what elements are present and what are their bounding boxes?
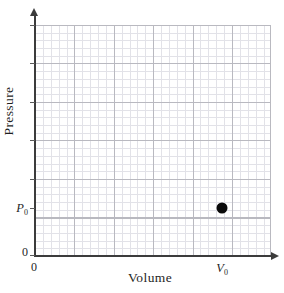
x-axis-arrow-icon xyxy=(271,252,279,260)
x-axis-title: Volume xyxy=(128,271,172,285)
p0-subscript: 0 xyxy=(24,207,28,216)
y-axis-arrow-icon xyxy=(30,8,38,16)
y-axis-tick xyxy=(30,102,35,103)
y-axis-tick xyxy=(30,25,35,26)
v0-subscript: 0 xyxy=(224,267,228,276)
y-axis-title: Pressure xyxy=(2,87,16,136)
y-axis-tick xyxy=(30,63,35,64)
graph-paper-grid xyxy=(35,25,271,256)
p0-symbol: P xyxy=(16,201,24,215)
pressure-volume-graph: Pressure Volume P0 V0 0 0 xyxy=(0,0,284,293)
y-axis-value-label: P0 xyxy=(16,202,28,215)
y-axis-tick xyxy=(30,140,35,141)
grid-top-border xyxy=(35,25,271,26)
grid-right-border xyxy=(270,25,271,256)
y-axis-tick xyxy=(30,208,35,209)
x-axis-origin-label: 0 xyxy=(31,261,37,273)
y-axis-origin-label: 0 xyxy=(22,246,28,258)
x-axis-value-label: V0 xyxy=(216,262,228,275)
y-axis-tick xyxy=(30,179,35,180)
y-axis-tick xyxy=(30,255,35,256)
data-point-state xyxy=(217,203,228,214)
y-axis-line xyxy=(34,14,36,257)
v0-symbol: V xyxy=(216,261,224,275)
x-axis-line xyxy=(35,255,275,257)
